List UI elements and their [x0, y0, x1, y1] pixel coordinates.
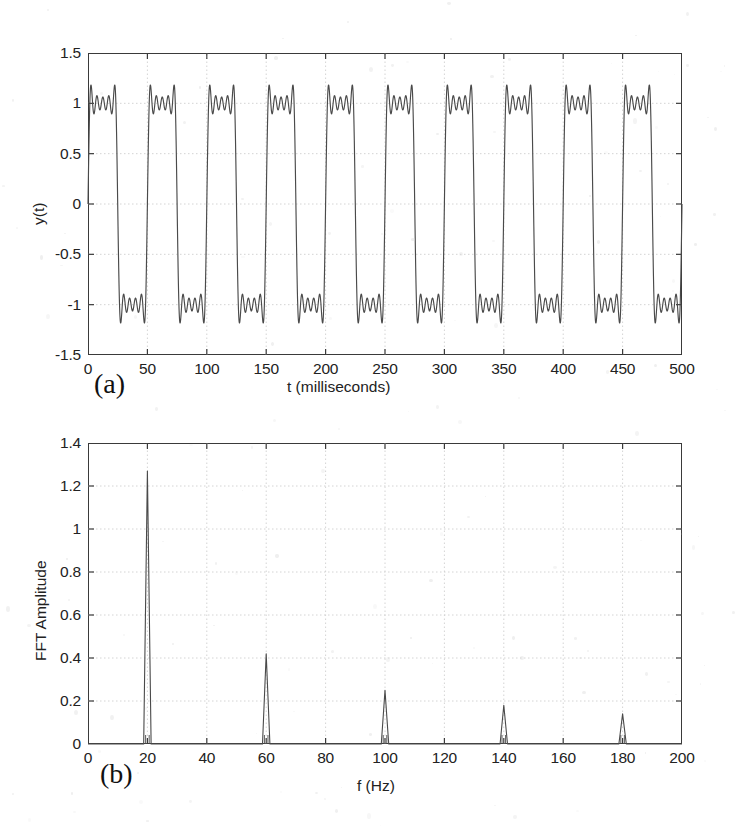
y-tick-label: -1 — [68, 296, 81, 314]
y-tick-label: 0.8 — [60, 563, 81, 581]
x-tick-label: 160 — [551, 749, 576, 767]
panel-b-fft-spectrum: 00.20.40.60.811.21.402040608010012014016… — [0, 415, 736, 828]
x-tick-label: 40 — [198, 749, 215, 767]
scan-speck — [694, 243, 697, 246]
scan-speck — [74, 710, 78, 715]
scan-speck — [490, 75, 494, 78]
panel-label-a: (a) — [94, 368, 125, 400]
y-tick-label: 1.4 — [60, 434, 81, 452]
scan-speck — [139, 800, 143, 804]
x-tick-label: 150 — [254, 360, 279, 378]
y-tick-label: 1.5 — [60, 44, 81, 62]
scan-speck — [390, 209, 394, 213]
x-tick-label: 60 — [258, 749, 275, 767]
scan-speck — [381, 233, 383, 235]
scan-speck — [513, 815, 517, 819]
scan-speck — [64, 233, 66, 234]
scan-speck — [66, 558, 68, 560]
scan-speck — [597, 240, 600, 244]
y-axis-title-time-domain: y(t) — [30, 203, 48, 225]
x-tick-label: 200 — [669, 749, 694, 767]
y-tick-label: 1 — [73, 94, 81, 112]
scan-speck — [589, 195, 591, 197]
scan-speck — [429, 579, 433, 582]
scan-speck — [146, 820, 149, 822]
scan-speck — [275, 554, 279, 558]
x-tick-label: 0 — [84, 749, 92, 767]
scan-speck — [68, 599, 70, 601]
scan-speck — [411, 238, 415, 241]
scan-speck — [436, 133, 439, 135]
scan-speck — [241, 198, 244, 200]
scan-speck — [633, 118, 637, 124]
scan-speck — [288, 668, 290, 671]
scan-speck — [328, 232, 331, 235]
scan-speck — [6, 606, 10, 612]
scan-speck — [46, 314, 50, 319]
scan-speck — [494, 323, 498, 328]
scan-speck — [137, 772, 139, 774]
x-tick-label: 120 — [432, 749, 457, 767]
scan-speck — [686, 64, 689, 67]
y-axis-title-fft: FFT Amplitude — [32, 560, 50, 661]
scan-speck — [367, 813, 371, 819]
scan-speck — [467, 516, 470, 518]
scan-speck — [587, 650, 589, 652]
y-tick-label: 0.2 — [60, 692, 81, 710]
scan-speck — [672, 290, 674, 292]
scan-speck — [520, 656, 524, 660]
scan-speck — [574, 637, 577, 640]
y-tick-label: 1 — [73, 520, 81, 538]
scan-speck — [241, 256, 245, 258]
y-tick-label: -1.5 — [55, 346, 81, 364]
scan-speck — [459, 252, 463, 256]
scan-speck — [604, 151, 608, 154]
scan-speck — [508, 58, 511, 61]
x-tick-label: 400 — [551, 360, 576, 378]
x-tick-label: 250 — [372, 360, 397, 378]
scan-speck — [361, 165, 364, 168]
scan-speck — [369, 733, 372, 736]
y-tick-label: 0 — [73, 735, 81, 753]
scan-speck — [274, 56, 278, 60]
scan-speck — [704, 760, 706, 762]
scan-speck — [493, 131, 496, 133]
scan-speck — [485, 496, 486, 497]
panel-a-time-domain: -1.5-1-0.500.511.50501001502002503003504… — [0, 0, 736, 415]
y-tick-label: 1.2 — [60, 477, 81, 495]
scan-speck — [447, 2, 451, 5]
scan-speck — [442, 685, 444, 686]
scan-speck — [692, 545, 695, 550]
scan-speck — [47, 9, 49, 11]
scan-speck — [373, 604, 377, 609]
x-tick-label: 300 — [432, 360, 457, 378]
scan-speck — [408, 411, 409, 412]
scan-speck — [271, 342, 274, 346]
scan-speck — [714, 127, 717, 131]
scan-speck — [34, 647, 37, 650]
scan-speck — [458, 420, 462, 424]
scan-speck — [450, 38, 452, 40]
x-axis-title-time-domain: t (milliseconds) — [287, 378, 390, 396]
scan-speck — [672, 279, 675, 283]
scan-speck — [100, 92, 103, 95]
y-tick-label: -0.5 — [55, 245, 81, 263]
scan-speck — [324, 798, 326, 800]
scan-speck — [410, 637, 412, 639]
scan-speck — [391, 64, 394, 67]
x-tick-label: 500 — [669, 360, 694, 378]
scan-speck — [440, 532, 443, 536]
y-tick-label: 0.5 — [60, 145, 81, 163]
x-tick-label: 450 — [610, 360, 635, 378]
scan-speck — [315, 792, 318, 794]
y-tick-label: 0 — [73, 195, 81, 213]
scan-speck — [189, 444, 193, 446]
scan-speck — [667, 681, 670, 683]
scan-speck — [732, 611, 735, 614]
scan-speck — [386, 657, 390, 662]
scan-speck — [369, 67, 373, 72]
scan-speck — [713, 213, 716, 216]
y-tick-label: 0.6 — [60, 606, 81, 624]
scan-speck — [172, 643, 174, 645]
scan-speck — [321, 469, 325, 473]
